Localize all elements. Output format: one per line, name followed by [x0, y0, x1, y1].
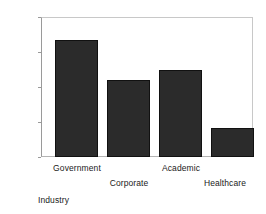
bar-academic	[159, 70, 202, 158]
x-tick-label-healthcare: Healthcare	[204, 179, 246, 188]
bar-corporate	[107, 80, 150, 157]
x-tick-label-corporate: Corporate	[110, 179, 149, 188]
x-tick-label-academic: Academic	[162, 164, 200, 173]
x-axis-title: Industry	[38, 196, 69, 205]
bar-chart: 400 300 200 100 0 Government Corporate A…	[0, 0, 266, 214]
y-axis: 400 300 200 100 0	[0, 0, 41, 214]
x-tick-label-government: Government	[53, 164, 101, 173]
bar-government	[55, 40, 98, 157]
bar-healthcare	[211, 128, 254, 157]
bars-layer	[41, 17, 253, 157]
y-tick-mark	[38, 157, 41, 158]
